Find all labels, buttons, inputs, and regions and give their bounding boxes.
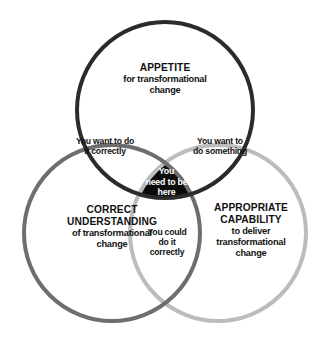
overlap-label-top-right: You want to do something bbox=[178, 136, 262, 156]
overlap-bottom-line-2: do it bbox=[131, 237, 203, 247]
appropriate-capability-heading-line-1: APPROPRIATE bbox=[190, 202, 312, 214]
center-line-3: here bbox=[138, 187, 195, 198]
venn-diagram: APPETITE for transformational change COR… bbox=[0, 0, 327, 338]
center-label-need-to-be-here: You need to be here bbox=[138, 166, 195, 198]
overlap-label-top-left: You want to do it correctly bbox=[62, 136, 148, 156]
overlap-top-right-line-2: do something bbox=[178, 146, 262, 156]
center-line-2: need to be bbox=[138, 177, 195, 188]
overlap-top-left-line-2: it correctly bbox=[62, 146, 148, 156]
overlap-bottom-line-3: correctly bbox=[131, 247, 203, 257]
overlap-top-right-line-1: You want to bbox=[178, 136, 262, 146]
appetite-body-line-1: for transformational bbox=[97, 74, 233, 85]
appropriate-capability-body-line-3: change bbox=[190, 248, 312, 259]
appropriate-capability-body-line-1: to deliver bbox=[190, 226, 312, 237]
correct-understanding-heading-line-1: CORRECT bbox=[36, 204, 188, 216]
overlap-bottom-line-1: You could bbox=[131, 227, 203, 237]
appropriate-capability-heading-line-2: CAPABILITY bbox=[190, 214, 312, 226]
overlap-top-left-line-1: You want to do bbox=[62, 136, 148, 146]
center-line-1: You bbox=[138, 166, 195, 177]
appetite-body-line-2: change bbox=[97, 85, 233, 96]
circle-label-appropriate-capability: APPROPRIATE CAPABILITY to deliver transf… bbox=[190, 202, 312, 259]
appropriate-capability-body-line-2: transformational bbox=[190, 237, 312, 248]
overlap-label-bottom: You could do it correctly bbox=[131, 227, 203, 257]
circle-label-appetite: APPETITE for transformational change bbox=[97, 62, 233, 96]
appetite-heading: APPETITE bbox=[97, 62, 233, 74]
